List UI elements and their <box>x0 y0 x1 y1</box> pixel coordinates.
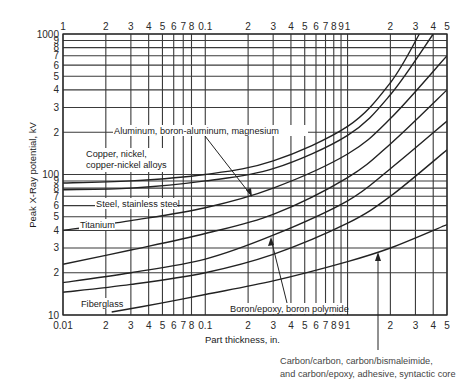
label-carbon-line2: and carbon/epoxy, adhesive, syntactic co… <box>280 369 456 379</box>
x-tick-label-top: 3 <box>128 21 134 32</box>
x-tick-label-bottom: 7 <box>180 320 186 331</box>
label-copper-line1: Copper, nickel, <box>86 149 147 159</box>
x-tick-label-bottom: 9 <box>338 320 344 331</box>
y-axis-title: Peak X-Ray potential, kV <box>27 122 38 228</box>
y-tick-label: 6 <box>53 60 59 71</box>
x-tick-label-top: 6 <box>313 21 319 32</box>
x-tick-label-top: 7 <box>323 21 329 32</box>
x-tick-label-top: 7 <box>180 21 186 32</box>
x-tick-label-bottom: 4 <box>430 320 436 331</box>
y-tick-label: 2 <box>53 127 59 138</box>
x-tick-label-top: 2 <box>245 21 251 32</box>
label-titanium: Titanium <box>80 220 115 230</box>
y-tick-label: 100 <box>42 169 59 180</box>
x-tick-label-bottom: 0.01 <box>53 320 73 331</box>
x-tick-label-bottom: 3 <box>128 320 134 331</box>
y-tick-label: 1000 <box>37 29 60 40</box>
y-tick-label: 5 <box>53 211 59 222</box>
x-tick-label-top: 5 <box>444 21 450 32</box>
x-tick-label-top: 3 <box>270 21 276 32</box>
x-tick-label-bottom: 4 <box>146 320 152 331</box>
x-tick-label-bottom: 3 <box>270 320 276 331</box>
x-tick-label-bottom: 5 <box>160 320 166 331</box>
x-tick-label-bottom: 5 <box>302 320 308 331</box>
x-tick-label-bottom: 7 <box>323 320 329 331</box>
annotation-arrows <box>205 136 381 350</box>
x-tick-label-top: 3 <box>413 21 419 32</box>
x-tick-label-bottom: 5 <box>444 320 450 331</box>
y-tick-label: 4 <box>53 225 59 236</box>
x-tick-label-bottom: 2 <box>388 320 394 331</box>
series-curve <box>63 90 447 264</box>
x-tick-label-bottom: 2 <box>245 320 251 331</box>
xray-potential-chart: 0.011223344556677880.10.1223344556677889… <box>0 0 471 390</box>
x-tick-label-top: 8 <box>189 21 195 32</box>
label-boron: Boron/epoxy, boron polymide <box>230 304 349 314</box>
x-tick-label-bottom: 3 <box>413 320 419 331</box>
y-tick-label: 2 <box>53 267 59 278</box>
label-fiberglass: Fiberglass <box>81 299 124 309</box>
y-tick-label: 4 <box>53 84 59 95</box>
label-aluminum: Aluminum, boron-aluminum, magnesium <box>114 126 279 136</box>
y-tick-label: 6 <box>53 200 59 211</box>
x-tick-label-top: 6 <box>171 21 177 32</box>
x-tick-label-bottom: 0.1 <box>198 320 212 331</box>
x-tick-label-bottom: 1 <box>345 320 351 331</box>
label-copper-line2: copper-nickel alloys <box>86 160 167 170</box>
x-tick-label-bottom: 8 <box>331 320 337 331</box>
curves <box>63 34 447 312</box>
y-tick-label: 3 <box>53 242 59 253</box>
y-tick-label: 3 <box>53 102 59 113</box>
x-tick-label-top: 4 <box>288 21 294 32</box>
x-tick-label-top: 5 <box>302 21 308 32</box>
x-tick-label-top: 8 <box>331 21 337 32</box>
x-tick-label-top: 2 <box>388 21 394 32</box>
x-tick-label-top: 2 <box>103 21 109 32</box>
y-tick-label: 5 <box>53 71 59 82</box>
x-tick-label-bottom: 6 <box>171 320 177 331</box>
x-tick-label-top: 9 <box>338 21 344 32</box>
y-tick-label: 10 <box>48 310 60 321</box>
x-tick-label-bottom: 8 <box>189 320 195 331</box>
x-tick-label-bottom: 4 <box>288 320 294 331</box>
x-tick-label-bottom: 2 <box>103 320 109 331</box>
x-tick-label-top: 0.1 <box>198 21 212 32</box>
x-axis-title: Part thickness, in. <box>205 334 280 345</box>
x-tick-label-bottom: 6 <box>313 320 319 331</box>
x-tick-label-top: 1 <box>345 21 351 32</box>
label-steel: Steel, stainless steel <box>96 199 180 209</box>
x-tick-label-top: 5 <box>160 21 166 32</box>
label-carbon-line1: Carbon/carbon, carbon/bismaleimide, <box>280 356 433 366</box>
x-tick-label-top: 4 <box>430 21 436 32</box>
grid-lines <box>63 34 447 315</box>
x-tick-label-top: 1 <box>60 21 66 32</box>
x-tick-label-top: 4 <box>146 21 152 32</box>
